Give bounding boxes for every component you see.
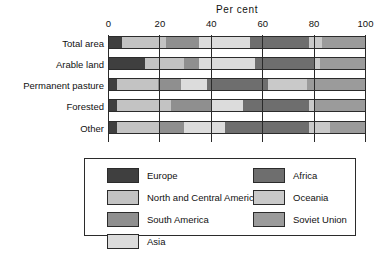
legend: EuropeNorth and Central AmericaSouth Ame…	[84, 158, 356, 236]
bar-row	[108, 99, 366, 112]
category-label: Permanent pasture	[4, 80, 104, 91]
bar-segment	[109, 122, 117, 133]
bar-segment	[268, 79, 307, 90]
category-label: Forested	[4, 101, 104, 112]
category-labels: Total areaArable landPermanent pastureFo…	[0, 35, 104, 142]
bar-segment	[160, 122, 183, 133]
bar-segment	[250, 37, 309, 48]
bar-segment	[145, 58, 184, 69]
gridline	[159, 35, 160, 142]
legend-swatch	[253, 168, 285, 183]
bar-segment	[330, 122, 366, 133]
gridline	[262, 35, 263, 142]
gridline	[108, 35, 109, 142]
category-label: Total area	[4, 38, 104, 49]
bar-track	[108, 78, 366, 91]
legend-swatch	[107, 212, 139, 227]
bar-segment	[109, 79, 117, 90]
bar-segment	[109, 100, 117, 111]
bar-segment	[309, 37, 322, 48]
bar-segment	[184, 122, 225, 133]
legend-swatch	[107, 190, 139, 205]
bar-track	[108, 99, 366, 112]
bar-segment	[207, 79, 269, 90]
bar-segment	[255, 58, 314, 69]
gridline	[365, 35, 366, 142]
bar-segment	[309, 122, 330, 133]
bar-row	[108, 121, 366, 134]
bar-segment	[315, 100, 366, 111]
legend-label: South America	[147, 214, 209, 225]
x-tick-label: 0	[106, 18, 111, 29]
category-label: Other	[4, 123, 104, 134]
legend-label: Soviet Union	[293, 214, 347, 225]
legend-label: Europe	[147, 170, 178, 181]
bar-track	[108, 57, 366, 70]
legend-swatch	[253, 212, 285, 227]
bar-segment	[243, 100, 310, 111]
bar-segment	[117, 122, 161, 133]
legend-swatch	[253, 190, 285, 205]
gridline	[211, 35, 212, 142]
x-axis: 020406080100	[108, 18, 366, 32]
bar-segment	[109, 58, 145, 69]
bar-segment	[166, 37, 199, 48]
bar-row	[108, 57, 366, 70]
legend-label: Asia	[147, 236, 165, 247]
category-label: Arable land	[4, 59, 104, 70]
x-tick-label: 40	[206, 18, 217, 29]
bar-segment	[117, 100, 171, 111]
bar-row	[108, 36, 366, 49]
bar-segment	[109, 37, 122, 48]
bar-segment	[171, 100, 212, 111]
legend-label: North and Central America	[147, 192, 259, 203]
legend-swatch	[107, 168, 139, 183]
x-tick-label: 20	[155, 18, 166, 29]
bar-segment	[199, 37, 250, 48]
bar-segment	[320, 58, 366, 69]
chart-title: Per cent	[108, 4, 366, 15]
bar-segment	[212, 100, 243, 111]
bar-segment	[322, 37, 366, 48]
x-tick-label: 60	[257, 18, 268, 29]
stacked-bar-chart: Per cent 020406080100 Total areaArable l…	[0, 0, 386, 270]
bar-row	[108, 78, 366, 91]
legend-label: Africa	[293, 170, 317, 181]
legend-swatch	[107, 234, 139, 249]
bar-segment	[117, 79, 158, 90]
legend-label: Oceania	[293, 192, 328, 203]
bar-track	[108, 121, 366, 134]
x-tick-label: 80	[309, 18, 320, 29]
bar-segment	[181, 79, 207, 90]
x-tick-label: 100	[358, 18, 374, 29]
bar-segment	[158, 79, 181, 90]
bar-segment	[225, 122, 310, 133]
bar-segment	[184, 58, 199, 69]
plot-area	[108, 35, 366, 142]
bar-segment	[307, 79, 366, 90]
gridline	[314, 35, 315, 142]
bar-segment	[199, 58, 256, 69]
bar-track	[108, 36, 366, 49]
